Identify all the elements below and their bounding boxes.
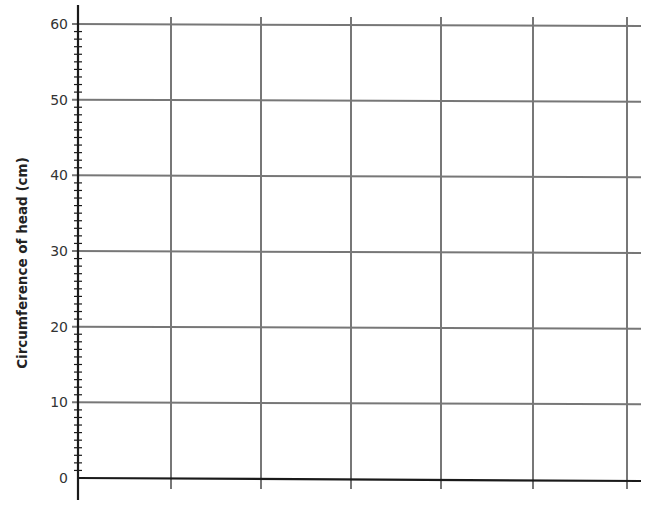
- gridline-y-40: [72, 175, 641, 177]
- y-tick-label-50: 50: [50, 92, 68, 108]
- gridline-y-30: [72, 251, 641, 253]
- y-tick-label-30: 30: [50, 243, 68, 259]
- y-axis-label: Circumference of head (cm): [14, 157, 30, 369]
- blank-grid-chart: 0102030405060: [0, 0, 658, 521]
- horizontal-gridlines: [72, 24, 641, 404]
- y-tick-label-10: 10: [50, 394, 68, 410]
- y-tick-labels: 0102030405060: [50, 16, 68, 486]
- y-tick-label-60: 60: [50, 16, 68, 32]
- gridline-y-20: [72, 327, 641, 329]
- y-tick-label-0: 0: [59, 470, 68, 486]
- gridline-y-10: [72, 402, 641, 404]
- gridline-y-50: [72, 100, 641, 102]
- y-tick-label-20: 20: [50, 319, 68, 335]
- gridline-y-60: [72, 24, 641, 26]
- x-axis: [78, 478, 641, 481]
- y-tick-label-40: 40: [50, 167, 68, 183]
